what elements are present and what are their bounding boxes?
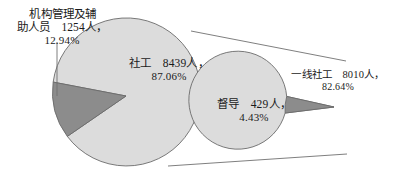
pie-chart-figure: 机构管理及辅 助人员 1254人， 12.94% 社工 8439人， 87.06… (0, 0, 417, 183)
label-admin-staff-line2: 助人员 1254人， (6, 21, 118, 34)
label-admin-staff-line3: 12.94% (6, 34, 118, 46)
label-social-worker: 社工 8439人， 87.06% (120, 57, 218, 82)
label-admin-staff: 机构管理及辅 助人员 1254人， 12.94% (6, 8, 118, 46)
label-frontline-worker: 一线社工 8010人， 82.64% (288, 69, 388, 92)
label-supervisor-line1: 督导 429人， (214, 98, 294, 111)
label-frontline-worker-line1: 一线社工 8010人， (288, 69, 388, 81)
label-supervisor-line2: 4.43% (214, 111, 294, 123)
connector-line-bottom (168, 154, 347, 166)
label-frontline-worker-line2: 82.64% (288, 81, 388, 92)
label-social-worker-line2: 87.06% (120, 70, 218, 82)
label-supervisor: 督导 429人， 4.43% (214, 98, 294, 123)
label-admin-staff-line1: 机构管理及辅 (6, 8, 118, 21)
label-social-worker-line1: 社工 8439人， (120, 57, 218, 70)
